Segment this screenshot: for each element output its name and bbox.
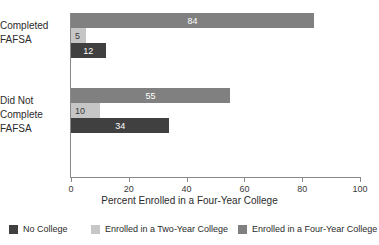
legend-item-label: Enrolled in a Two-Year College [105, 224, 228, 235]
bar-value-label: 34 [71, 121, 169, 131]
chart-legend: No College Enrolled in a Two-Year Colleg… [0, 222, 379, 238]
bar-chart: Completed FAFSA Did Not Complete FAFSA 0… [0, 0, 379, 245]
legend-item-label: No College [23, 224, 68, 235]
x-axis-tick [360, 177, 361, 182]
x-axis-line [71, 177, 361, 178]
bar-value-label: 5 [75, 31, 80, 41]
category-label-did-not-complete-fafsa: Did Not Complete FAFSA [0, 94, 66, 136]
legend-item-two-year-college: Enrolled in a Two-Year College [91, 222, 228, 236]
bar-value-label: 12 [71, 46, 106, 56]
category-label-completed-fafsa: Completed FAFSA [0, 19, 66, 47]
bar-completed-fafsa-four-year: 84 [71, 13, 314, 28]
x-axis-tick [187, 177, 188, 182]
bar-did-not-complete-fafsa-four-year: 55 [71, 88, 230, 103]
legend-swatch-icon [238, 225, 247, 234]
category-label-line: FAFSA [0, 122, 66, 136]
x-axis-tick [244, 177, 245, 182]
bar-value-label: 84 [71, 16, 314, 26]
legend-item-four-year-college: Enrolled in a Four-Year College [238, 222, 377, 236]
legend-swatch-icon [9, 225, 18, 234]
category-label-line: Complete [0, 108, 66, 122]
bar-value-label: 55 [71, 91, 230, 101]
x-axis-tick [129, 177, 130, 182]
x-axis-tick [71, 177, 72, 182]
x-axis-title: Percent Enrolled in a Four-Year College [0, 194, 379, 207]
legend-swatch-icon [91, 225, 100, 234]
category-label-line: Did Not [0, 94, 66, 108]
legend-item-no-college: No College [9, 222, 68, 236]
bar-value-label: 10 [75, 106, 85, 116]
bar-did-not-complete-fafsa-no-college: 34 [71, 118, 169, 133]
category-label-line: Completed [0, 19, 66, 33]
bar-completed-fafsa-two-year: 5 [71, 28, 86, 43]
legend-item-label: Enrolled in a Four-Year College [252, 224, 377, 235]
category-label-line: FAFSA [0, 33, 66, 47]
bar-did-not-complete-fafsa-two-year: 10 [71, 103, 100, 118]
bar-completed-fafsa-no-college: 12 [71, 43, 106, 58]
x-axis-tick [302, 177, 303, 182]
